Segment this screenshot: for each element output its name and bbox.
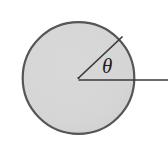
geometry-figure: θ [0, 0, 168, 142]
angle-vertex-point [77, 77, 79, 79]
figure-canvas [0, 0, 168, 142]
theta-angle-label: θ [102, 56, 112, 77]
